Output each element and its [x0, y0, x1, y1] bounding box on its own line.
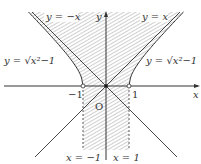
- label-origin: O: [95, 101, 103, 112]
- label-curve-left: y = √x²−1: [3, 55, 55, 66]
- label-x-axis: x: [193, 89, 199, 100]
- origin-point: [104, 84, 108, 88]
- label-x-eq-neg1: x = −1: [66, 152, 101, 163]
- label-curve-right: y = √x²−1: [145, 55, 197, 66]
- label-y-axis: y: [95, 11, 102, 22]
- tick-label-neg1: −1: [68, 89, 83, 100]
- label-y-eq-x: y = x: [141, 11, 168, 22]
- x-axis-arrow: [194, 84, 200, 88]
- open-point-neg1: [81, 84, 85, 88]
- hyperbola-diagram: y = −x y y = x y = √x²−1 y = √x²−1 −1 1 …: [0, 0, 201, 164]
- open-point-pos1: [127, 84, 131, 88]
- label-x-eq-pos1: x = 1: [113, 152, 140, 163]
- label-y-eq-neg-x: y = −x: [45, 11, 81, 22]
- tick-label-pos1: 1: [132, 89, 138, 100]
